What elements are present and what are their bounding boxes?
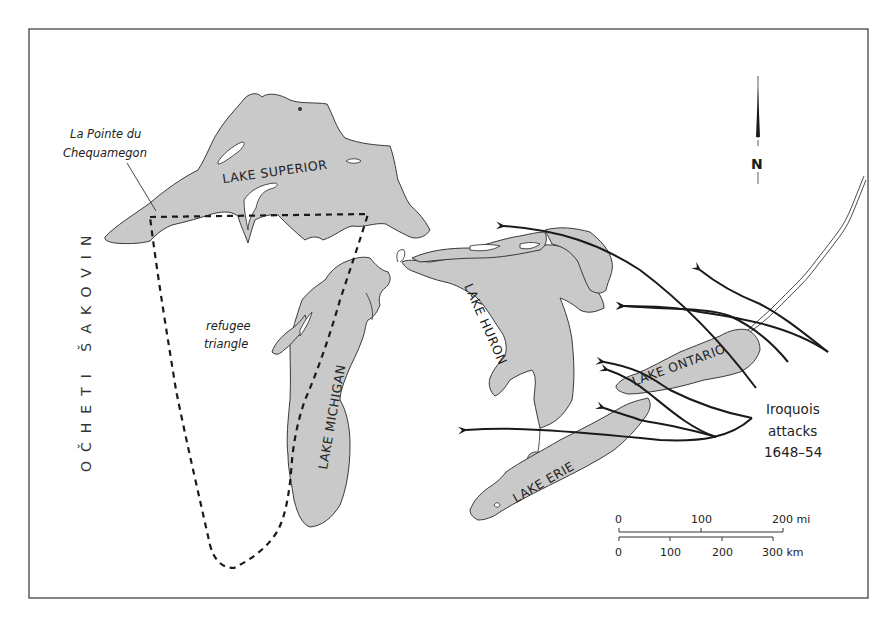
scale-mi-0: 0 — [615, 513, 622, 526]
scale-km-100: 100 — [660, 546, 681, 559]
label-attacks-line2: attacks — [768, 423, 817, 439]
label-la-pointe-line1: La Pointe du — [70, 127, 141, 141]
label-refugee-line2: triangle — [204, 337, 248, 351]
label-refugee-line1: refugee — [206, 319, 251, 333]
map: LAKE SUPERIOR LAKE MICHIGAN LAKE HURON L… — [0, 0, 892, 630]
scale-bar — [619, 528, 783, 541]
compass-label: N — [751, 156, 763, 172]
scale-km-200: 200 — [712, 546, 733, 559]
label-attacks-line1: Iroquois — [766, 401, 820, 417]
label-la-pointe-line2: Chequamegon — [63, 146, 147, 160]
la-pointe-leader — [127, 163, 156, 211]
scale-mi-200: 200 mi — [772, 513, 810, 526]
label-attacks-line3: 1648–54 — [764, 444, 822, 460]
scale-mi-100: 100 — [691, 513, 712, 526]
map-frame — [29, 29, 868, 598]
label-ocheti-sakovin: OČHETI ŠAKOVIN — [77, 227, 94, 472]
scale-km-300: 300 km — [762, 546, 804, 559]
lake-huron — [397, 228, 613, 428]
scale-km-0: 0 — [615, 546, 622, 559]
